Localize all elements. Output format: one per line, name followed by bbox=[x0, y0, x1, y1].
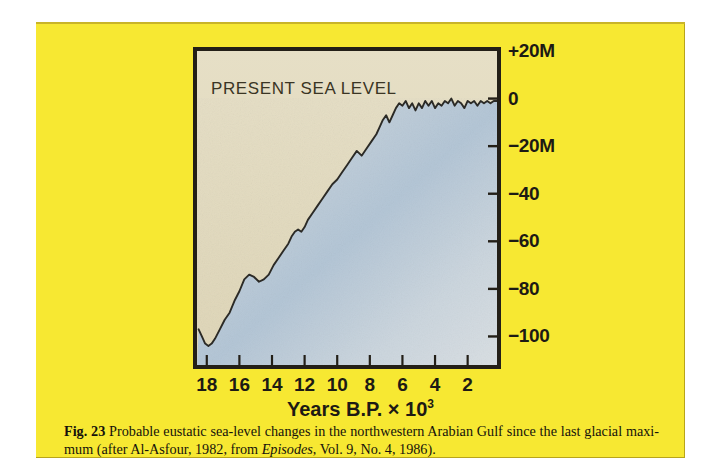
x-tick-label: 4 bbox=[430, 374, 441, 396]
x-tick-label: 8 bbox=[365, 374, 376, 396]
sea-level-chart bbox=[197, 51, 497, 365]
y-tick-label: −100 bbox=[508, 325, 550, 347]
x-tick-label: 12 bbox=[294, 374, 315, 396]
y-tick-label: −60 bbox=[508, 230, 539, 252]
caption-source: Episodes bbox=[262, 441, 313, 457]
x-tick-label: 16 bbox=[229, 374, 250, 396]
x-tick-label: 10 bbox=[327, 374, 348, 396]
x-axis-labels: 18161412108642 bbox=[193, 374, 505, 398]
caption-figure-number: Fig. 23 bbox=[64, 423, 105, 439]
x-axis-title: Years B.P. × 103 bbox=[36, 397, 685, 421]
y-tick-label: 0 bbox=[508, 88, 518, 110]
y-tick-label: −80 bbox=[508, 278, 539, 300]
x-tick-label: 18 bbox=[196, 374, 217, 396]
figure-caption: Fig. 23 Probable eustatic sea-level chan… bbox=[64, 422, 659, 458]
x-tick-label: 14 bbox=[261, 374, 282, 396]
y-tick-label: −40 bbox=[508, 183, 539, 205]
x-tick-label: 6 bbox=[397, 374, 408, 396]
y-tick-label: −20M bbox=[508, 135, 555, 157]
x-tick-label: 2 bbox=[462, 374, 473, 396]
figure-page: PRESENT SEA LEVEL +20M0−20M−40−60−80−100… bbox=[36, 22, 685, 458]
caption-text-2: , Vol. 9, No. 4, 1986). bbox=[313, 441, 436, 457]
plot-area: PRESENT SEA LEVEL bbox=[193, 47, 501, 369]
x-axis-title-text: Years B.P. × 103 bbox=[287, 398, 434, 420]
y-tick-label: +20M bbox=[508, 40, 555, 62]
chart-figure: PRESENT SEA LEVEL +20M0−20M−40−60−80−100… bbox=[36, 22, 685, 394]
y-axis-labels: +20M0−20M−40−60−80−100 bbox=[508, 47, 658, 369]
